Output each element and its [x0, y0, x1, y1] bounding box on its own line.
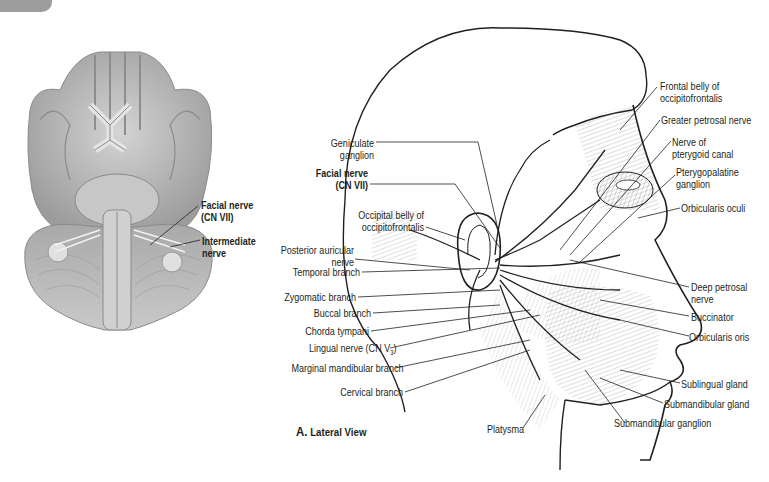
label-frontal-belly: Frontal belly of occipitofrontalis — [660, 80, 722, 104]
label-orbicularis-oculi: Orbicularis oculi — [681, 202, 745, 214]
label-geniculate-ganglion: Geniculate ganglion — [302, 137, 374, 161]
label-posterior-auricular-nerve: Posterior auricular nerve — [273, 244, 354, 268]
label-text: Frontal belly of — [660, 80, 719, 92]
head-lateral-view-illustration — [0, 0, 769, 482]
label-lingual-nerve: Lingual nerve (CN V3) — [309, 342, 388, 359]
label-text: Cervical branch — [340, 386, 403, 398]
label-zygomatic-branch: Zygomatic branch — [275, 291, 356, 303]
panel-caption: A. Lateral View — [296, 424, 366, 439]
label-nerve-of-pterygoid-canal: Nerve of pterygoid canal — [672, 136, 733, 160]
label-temporal-branch: Temporal branch — [276, 266, 360, 278]
caption-text: Lateral View — [310, 426, 366, 438]
label-text: Buccinator — [691, 311, 734, 323]
label-cervical-branch: Cervical branch — [327, 386, 403, 398]
label-buccinator: Buccinator — [691, 311, 734, 323]
label-text: Temporal branch — [293, 266, 360, 278]
label-marginal-mandibular-branch: Marginal mandibular branch — [292, 362, 393, 374]
label-greater-petrosal-nerve: Greater petrosal nerve — [661, 114, 751, 126]
label-text: Zygomatic branch — [284, 291, 356, 303]
label-text: pterygoid canal — [672, 148, 733, 160]
label-buccal-branch: Buccal branch — [301, 307, 371, 319]
label-text: Nerve of — [672, 136, 706, 148]
caption-letter: A. — [296, 424, 307, 439]
label-text: Marginal mandibular branch — [292, 362, 404, 374]
label-text: Buccal branch — [314, 307, 371, 319]
label-text: occipitofrontalis — [362, 221, 424, 233]
label-text: (CN VII) — [335, 179, 368, 191]
label-pterygopalatine-ganglion: Pterygopalatine ganglion — [676, 166, 739, 190]
label-text: ) — [394, 342, 397, 354]
label-text: Submandibular ganglion — [614, 417, 711, 429]
label-text: Platysma — [487, 423, 524, 435]
label-chorda-tympani: Chorda tympani — [301, 325, 369, 337]
label-facial-nerve: Facial nerve (CN VII) — [292, 167, 368, 191]
label-text: Chorda tympani — [305, 325, 369, 337]
label-text: Pterygopalatine — [676, 166, 739, 178]
label-text: Orbicularis oculi — [681, 202, 745, 214]
label-text: Posterior auricular — [281, 244, 354, 256]
label-text: ganglion — [340, 149, 374, 161]
label-text: Facial nerve — [316, 167, 368, 179]
label-text: ganglion — [676, 178, 710, 190]
label-text: Geniculate — [331, 137, 374, 149]
label-text: Greater petrosal nerve — [661, 114, 751, 126]
label-text: Orbicularis oris — [689, 331, 749, 343]
label-sublingual-gland: Sublingual gland — [681, 378, 748, 390]
label-submandibular-ganglion: Submandibular ganglion — [614, 417, 711, 429]
label-text: Occipital belly of — [358, 209, 424, 221]
label-occipital-belly: Occipital belly of occipitofrontalis — [285, 209, 424, 233]
label-text: nerve — [691, 293, 714, 305]
label-orbicularis-oris: Orbicularis oris — [689, 331, 749, 343]
label-platysma: Platysma — [487, 423, 524, 435]
label-text: Sublingual gland — [681, 378, 748, 390]
label-deep-petrosal-nerve: Deep petrosal nerve — [691, 281, 747, 305]
label-text: Lingual nerve (CN V — [309, 342, 390, 354]
label-text: Deep petrosal — [691, 281, 747, 293]
label-submandibular-gland: Submandibular gland — [664, 398, 749, 410]
label-text: occipitofrontalis — [660, 92, 722, 104]
label-text: Submandibular gland — [664, 398, 749, 410]
